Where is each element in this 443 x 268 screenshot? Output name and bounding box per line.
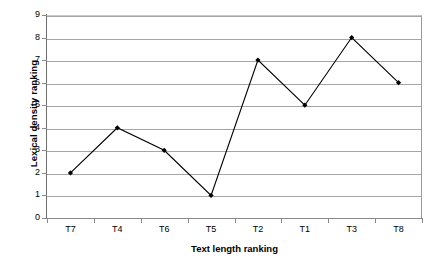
series-markers-group [68,35,401,198]
series-line [70,38,398,196]
line-chart: Lexical density ranking 0123456789 T7T4T… [0,0,443,268]
data-series-layer [0,0,443,268]
x-axis-title: Text length ranking [47,243,422,254]
